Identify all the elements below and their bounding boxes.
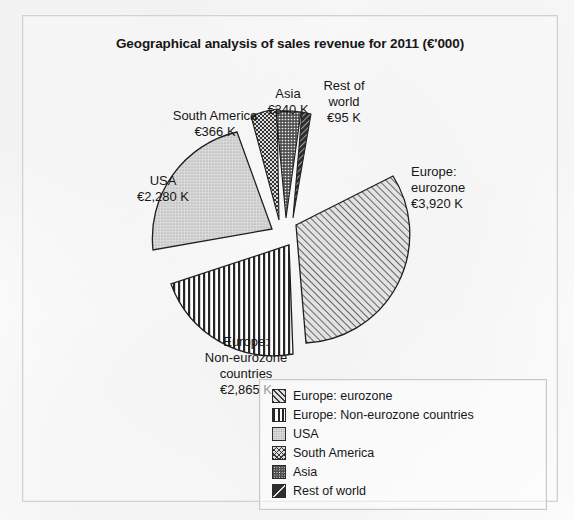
legend-item-usa[interactable]: USA <box>272 425 538 443</box>
legend-label: Asia <box>293 465 317 479</box>
legend-swatch-crosshatch-icon <box>272 446 286 460</box>
legend-label: Rest of world <box>293 484 366 498</box>
legend-item-europe-eurozone[interactable]: Europe: eurozone <box>272 387 538 405</box>
legend-item-asia[interactable]: Asia <box>272 463 538 481</box>
slice-label-rest-of-world: Rest of world €95 K <box>313 78 375 126</box>
chart-legend: Europe: eurozone Europe: Non-eurozone co… <box>259 379 547 510</box>
pie-slices <box>152 109 409 356</box>
legend-swatch-vertical-bars-icon <box>272 408 286 422</box>
legend-swatch-fine-dots-icon <box>272 427 286 441</box>
chart-page: Geographical analysis of sales revenue f… <box>0 0 574 520</box>
legend-label: South America <box>293 446 374 460</box>
legend-swatch-dense-dots-icon <box>272 465 286 479</box>
pie-slice-europe-eurozone[interactable] <box>296 176 410 343</box>
chart-frame: Geographical analysis of sales revenue f… <box>22 15 558 502</box>
legend-item-europe-non-eurozone[interactable]: Europe: Non-eurozone countries <box>272 406 538 424</box>
legend-item-south-america[interactable]: South America <box>272 444 538 462</box>
slice-label-europe-eurozone: Europe: eurozone €3,920 K <box>411 164 529 212</box>
legend-item-rest-of-world[interactable]: Rest of world <box>272 482 538 500</box>
slice-label-usa: USA €2,280 K <box>109 173 217 205</box>
legend-label: USA <box>293 427 319 441</box>
legend-label: Europe: Non-eurozone countries <box>293 408 474 422</box>
slice-label-asia: Asia €340 K <box>255 86 321 118</box>
legend-swatch-diagonal-hatch-icon <box>272 389 286 403</box>
legend-label: Europe: eurozone <box>293 389 392 403</box>
legend-swatch-dark-diagonal-icon <box>272 484 286 498</box>
